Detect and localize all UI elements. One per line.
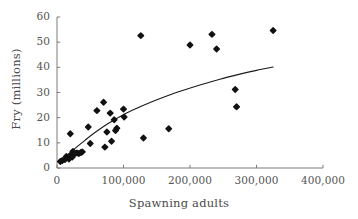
axes-group [57,17,323,168]
data-point-marker [86,124,91,129]
data-point-marker [68,131,73,136]
data-point-marker [101,100,106,105]
data-point-marker [214,46,219,51]
x-tick-label: 400,000 [288,174,358,186]
data-point-marker [138,33,143,38]
data-point-marker [121,106,126,111]
data-point-marker [187,42,192,47]
data-point-marker [111,117,116,122]
y-axis-title: Fry (millions) [9,29,23,149]
x-tick-label: 300,000 [222,174,292,186]
x-axis-title: Spawning adults [0,196,358,210]
data-point-marker [109,139,114,144]
data-point-marker [233,87,238,92]
data-point-marker [234,104,239,109]
data-point-marker [104,129,109,134]
x-tick-label: 200,000 [155,174,225,186]
fitted-curve [60,67,273,161]
y-tick-label: 0 [17,161,50,173]
x-tick-label: 0 [22,174,92,186]
data-point-marker [108,110,113,115]
data-point-marker [94,108,99,113]
regression-curve [60,67,273,161]
y-tick-label: 60 [17,10,50,22]
data-point-marker [166,126,171,131]
scatter-chart-figure: 0102030405060 0100,000200,000300,000400,… [0,0,358,219]
data-point-marker [141,135,146,140]
data-point-marker [102,144,107,149]
data-point-marker [209,32,214,37]
x-tick-label: 100,000 [89,174,159,186]
data-point-marker [88,141,93,146]
plot-canvas [0,0,358,219]
data-point-marker [270,28,275,33]
